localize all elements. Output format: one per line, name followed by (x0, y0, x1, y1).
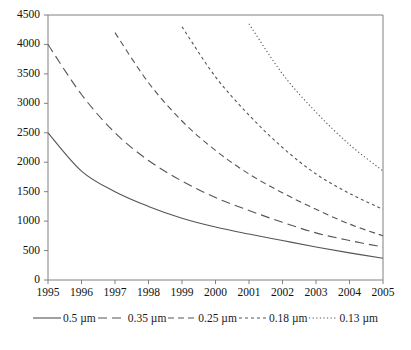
y-tick-label: 3500 (0, 68, 40, 80)
series-line (182, 27, 383, 210)
legend-line-swatch (32, 313, 62, 323)
series-line (48, 133, 383, 258)
legend-label: 0.35 µm (127, 312, 168, 324)
legend-line-swatch (167, 313, 197, 323)
legend-item: 0.25 µm (167, 312, 238, 324)
legend-label: 0.25 µm (197, 312, 238, 324)
series-line (115, 33, 383, 236)
y-tick-label: 2000 (0, 156, 40, 168)
legend-label: 0.13 µm (338, 312, 379, 324)
y-tick-label: 1000 (0, 215, 40, 227)
legend-line-swatch (238, 313, 268, 323)
chart-legend: 0.5 µm0.35 µm0.25 µm0.18 µm0.13 µm (0, 312, 411, 324)
y-tick-label: 4500 (0, 9, 40, 21)
legend-line-swatch (97, 313, 127, 323)
x-tick-label: 2005 (363, 287, 403, 299)
y-tick-label: 4000 (0, 38, 40, 50)
y-tick-label: 0 (0, 274, 40, 286)
chart-container: 050010001500200025003000350040004500 199… (0, 0, 411, 350)
y-tick-label: 500 (0, 245, 40, 257)
legend-item: 0.35 µm (97, 312, 168, 324)
series-line (249, 24, 383, 171)
legend-item: 0.5 µm (32, 312, 97, 324)
y-tick-label: 1500 (0, 186, 40, 198)
legend-label: 0.5 µm (62, 312, 97, 324)
y-tick-label: 2500 (0, 127, 40, 139)
legend-item: 0.18 µm (238, 312, 309, 324)
legend-item: 0.13 µm (308, 312, 379, 324)
legend-label: 0.18 µm (268, 312, 309, 324)
legend-line-swatch (308, 313, 338, 323)
y-tick-label: 3000 (0, 97, 40, 109)
